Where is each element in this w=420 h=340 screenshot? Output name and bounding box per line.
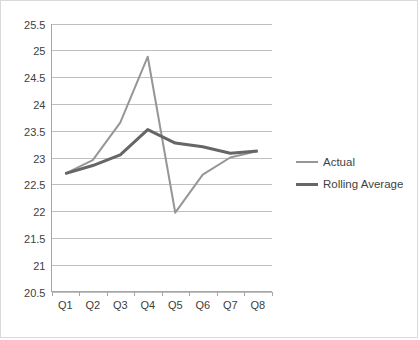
x-axis-tick-labels: Q1Q2Q3Q4Q5Q6Q7Q8 <box>58 299 265 311</box>
legend-label-actual: Actual <box>323 156 355 168</box>
legend-item-actual: Actual <box>296 151 414 173</box>
chart-frame: 25.52524.52423.52322.52221.52120.5 Q1Q2Q… <box>0 0 418 338</box>
y-axis-tick-label: 23 <box>33 153 45 165</box>
x-axis-tick-label: Q6 <box>195 299 210 311</box>
legend-swatch-rolling-average <box>296 183 318 186</box>
y-axis-tick-label: 20.5 <box>24 287 45 299</box>
y-axis-tick-label: 24 <box>33 99 45 111</box>
chart-legend: Actual Rolling Average <box>296 151 414 195</box>
y-axis-tick-labels: 25.52524.52423.52322.52221.52120.5 <box>24 19 45 299</box>
x-axis-tick-label: Q3 <box>113 299 128 311</box>
y-axis-tick-label: 21 <box>33 260 45 272</box>
x-axis-tick-label: Q1 <box>58 299 73 311</box>
y-axis-tick-label: 24.5 <box>24 72 45 84</box>
legend-label-rolling-average: Rolling Average <box>323 178 403 190</box>
y-axis-tick-label: 23.5 <box>24 126 45 138</box>
axes <box>52 24 272 292</box>
x-axis-tick-label: Q5 <box>168 299 183 311</box>
y-axis-tick-label: 25.5 <box>24 19 45 31</box>
gridlines <box>52 25 272 293</box>
x-axis-tick-label: Q4 <box>140 299 155 311</box>
x-axis-tick-label: Q8 <box>250 299 265 311</box>
x-axis-tick-label: Q2 <box>85 299 100 311</box>
legend-item-rolling-average: Rolling Average <box>296 173 414 195</box>
y-axis-tick-label: 22 <box>33 206 45 218</box>
y-axis-tick-label: 22.5 <box>24 179 45 191</box>
legend-swatch-actual <box>296 161 318 163</box>
y-axis-tick-label: 21.5 <box>24 233 45 245</box>
data-series <box>65 57 258 213</box>
series-line-rolling-average <box>65 130 258 174</box>
x-axis-tick-label: Q7 <box>223 299 238 311</box>
y-axis-tick-label: 25 <box>33 45 45 57</box>
